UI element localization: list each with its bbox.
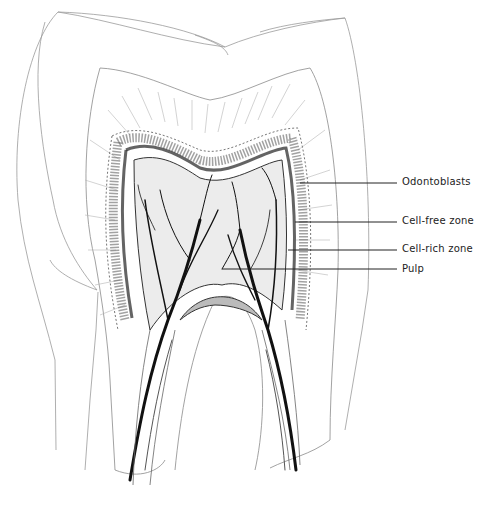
pulp-chamber <box>134 158 287 330</box>
label-cell-free-zone: Cell-free zone <box>402 215 474 227</box>
label-pulp: Pulp <box>402 263 424 275</box>
label-cell-rich-zone: Cell-rich zone <box>402 243 473 255</box>
label-odontoblasts: Odontoblasts <box>402 176 471 188</box>
root-canals <box>133 320 300 485</box>
